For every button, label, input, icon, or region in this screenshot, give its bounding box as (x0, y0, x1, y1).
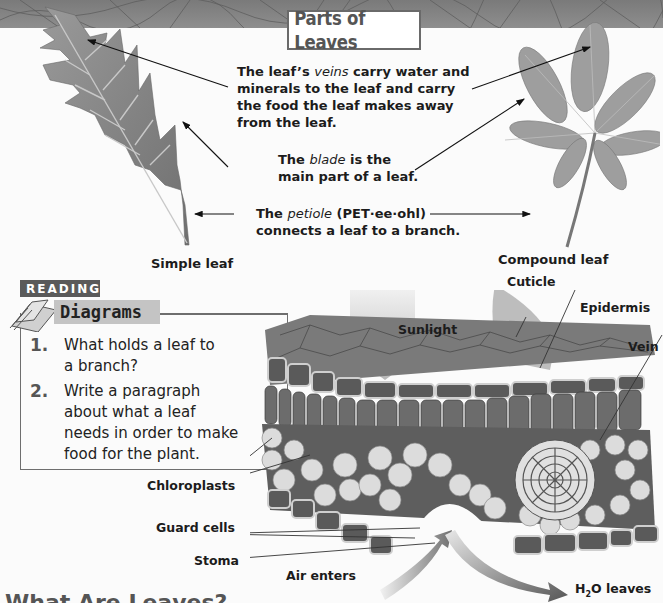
veins-line1-rest: carry water and (349, 64, 470, 79)
diagrams-heading: Diagrams (54, 300, 160, 324)
blade-line2: main part of a leaf. (278, 168, 418, 185)
veins-prefix: The leaf’s (237, 64, 314, 79)
section-heading-partial: What Are Leaves? (5, 588, 227, 603)
petiole-line1-rest: (PET·ee·ohl) (332, 206, 426, 221)
guard-cells-label: Guard cells (156, 520, 235, 535)
open-book-icon (8, 296, 60, 332)
petiole-line2: connects a leaf to a branch. (256, 222, 460, 239)
blade-term: blade (309, 152, 345, 167)
h2o-h: H (575, 581, 585, 596)
stoma-label: Stoma (194, 553, 239, 568)
petiole-prefix: The (256, 206, 287, 221)
veins-term: veins (314, 64, 348, 79)
question-2-line4: food for the plant. (64, 444, 238, 465)
chloroplasts-label: Chloroplasts (147, 478, 235, 493)
blade-callout: The blade is the main part of a leaf. (278, 151, 418, 185)
veins-line4: from the leaf. (237, 114, 470, 131)
simple-leaf-label: Simple leaf (151, 256, 233, 271)
blade-prefix: The (278, 152, 309, 167)
epidermis-label: Epidermis (580, 300, 650, 315)
question-1-line1: What holds a leaf to (64, 335, 215, 356)
question-2-line3: needs in order to make (64, 423, 238, 444)
reading-tag: READING (20, 280, 100, 297)
question-number: 2. (30, 381, 64, 465)
petiole-callout: The petiole (PET·ee·ohl) connects a leaf… (256, 205, 460, 239)
veins-callout: The leaf’s veins carry water and mineral… (237, 63, 470, 131)
question-1-line2: a branch? (64, 356, 215, 377)
h2o-rest: O leaves (591, 581, 651, 596)
question-number: 1. (30, 335, 64, 377)
compound-leaf-label: Compound leaf (498, 252, 608, 267)
sunlight-label: Sunlight (398, 322, 457, 337)
blade-line1-rest: is the (346, 152, 392, 167)
question-2-line1: Write a paragraph (64, 381, 238, 402)
cuticle-label: Cuticle (507, 274, 556, 289)
vein-label: Vein (628, 339, 659, 354)
petiole-term: petiole (287, 206, 332, 221)
veins-line3: the food the leaf makes away (237, 97, 470, 114)
question-2-line2: about what a leaf (64, 402, 238, 423)
h2o-leaves-label: H2O leaves (575, 581, 651, 599)
veins-line2: minerals to the leaf and carry (237, 80, 470, 97)
air-enters-label: Air enters (286, 568, 356, 583)
